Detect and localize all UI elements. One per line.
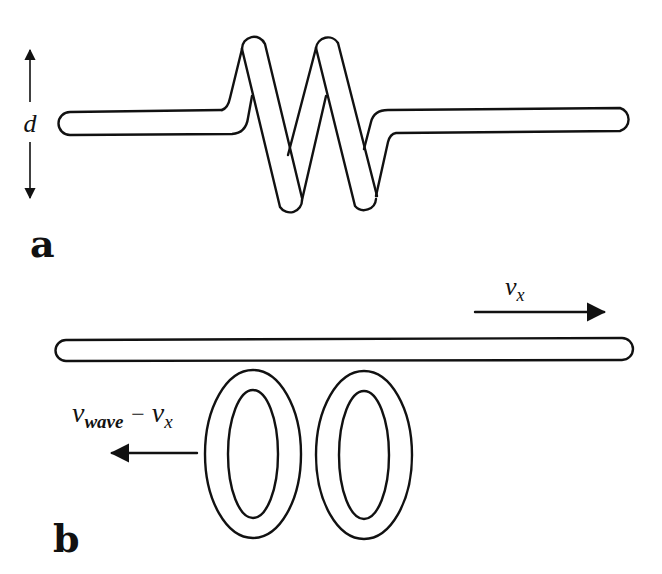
left-tube-rise xyxy=(222,49,242,110)
strand-2 xyxy=(288,48,316,155)
panel-b-label: b xyxy=(53,516,80,561)
twisted-tube xyxy=(59,37,629,213)
panel-a: d a xyxy=(24,37,629,266)
panel-b: vx vwave−vx b xyxy=(53,272,633,561)
figure-canvas: d a vx xyxy=(0,0,662,574)
ring-1 xyxy=(205,370,301,538)
ring-2 xyxy=(316,371,412,539)
ring-2-outer xyxy=(316,371,412,539)
vwave-minus-vx-label: vwave−vx xyxy=(72,397,173,432)
ring-1-inner xyxy=(228,390,278,518)
d-label: d xyxy=(24,109,38,138)
left-tube-segment xyxy=(59,96,253,135)
ring-1-outer xyxy=(205,370,301,538)
strand-2-back xyxy=(302,96,326,200)
panel-a-label: a xyxy=(30,221,55,266)
straight-tube xyxy=(56,338,633,361)
ring-2-inner xyxy=(339,391,389,519)
vx-label: vx xyxy=(505,272,525,305)
right-tube-rise xyxy=(364,108,629,196)
d-dimension-arrow: d xyxy=(24,50,38,198)
